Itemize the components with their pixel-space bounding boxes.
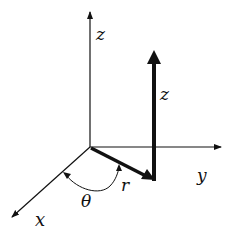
r-vector-label: r — [121, 175, 130, 195]
x-axis-label: x — [35, 209, 45, 230]
z-axis-label: z — [95, 24, 106, 44]
z-vector — [147, 50, 161, 181]
x-axis — [12, 147, 90, 217]
theta-label: θ — [81, 191, 91, 211]
theta-arc — [63, 164, 122, 191]
cylindrical-coordinates-diagram: z z y x r θ — [0, 0, 231, 237]
z-vector-label: z — [159, 84, 170, 104]
y-axis-label: y — [196, 165, 207, 185]
